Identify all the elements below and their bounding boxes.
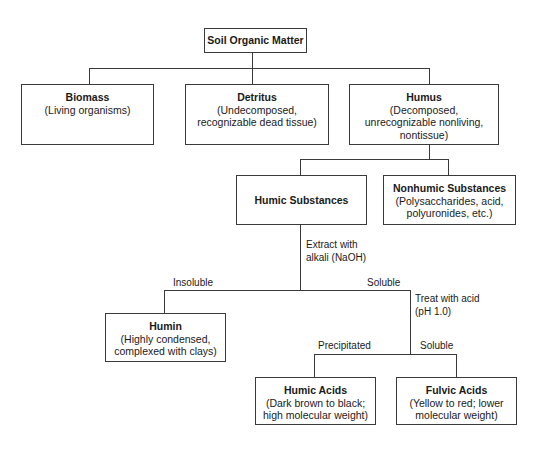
node-title: Humic Substances: [255, 194, 349, 207]
connector: [314, 354, 315, 377]
node-description: (Highly condensed, complexed with clays): [106, 333, 225, 358]
node-biomass: Biomass (Living organisms): [21, 84, 154, 145]
edge-label-treat-acid: Treat with acid (pH 1.0): [415, 292, 480, 318]
node-title: Humin: [106, 320, 225, 333]
connector: [429, 145, 430, 160]
connector: [89, 68, 90, 84]
node-nonhumic-substances: Nonhumic Substances (Polysaccharides, ac…: [383, 175, 516, 225]
connector: [164, 290, 411, 291]
node-title: Nonhumic Substances: [384, 182, 515, 195]
node-detritus: Detritus (Undecomposed, recognizable dea…: [185, 84, 329, 145]
node-soil-organic-matter: Soil Organic Matter: [204, 28, 307, 53]
node-description: (Living organisms): [22, 104, 153, 117]
node-title: Humic Acids: [256, 384, 375, 397]
node-title: Soil Organic Matter: [207, 34, 303, 47]
edge-label-precipitated: Precipitated: [318, 339, 371, 352]
connector: [300, 159, 301, 175]
node-humus: Humus (Decomposed, unrecognizable nonliv…: [349, 84, 499, 145]
node-fulvic-acids: Fulvic Acids (Yellow to red; lower molec…: [396, 377, 517, 425]
node-title: Biomass: [22, 91, 153, 104]
edge-label-soluble-acid: Soluble: [420, 339, 453, 352]
node-description: (Polysaccharides, acid, polyuronides, et…: [384, 195, 515, 220]
connector: [252, 53, 253, 69]
connector: [300, 159, 449, 160]
node-humic-substances: Humic Substances: [236, 175, 367, 225]
node-title: Detritus: [186, 91, 328, 104]
node-title: Fulvic Acids: [397, 384, 516, 397]
connector: [89, 68, 430, 69]
connector: [456, 354, 457, 377]
connector: [429, 68, 430, 84]
connector: [448, 159, 449, 175]
node-humic-acids: Humic Acids (Dark brown to black; high m…: [255, 377, 376, 425]
connector: [314, 354, 457, 355]
node-title: Humus: [350, 91, 498, 104]
edge-label-insoluble: Insoluble: [173, 276, 213, 289]
connector: [300, 225, 301, 291]
edge-label-soluble: Soluble: [367, 276, 400, 289]
connector: [252, 68, 253, 84]
connector: [410, 290, 411, 354]
node-description: (Undecomposed, recognizable dead tissue): [186, 104, 328, 129]
node-humin: Humin (Highly condensed, complexed with …: [105, 313, 226, 362]
node-description: (Decomposed, unrecognizable nonliving, n…: [350, 104, 498, 142]
edge-label-extract: Extract with alkali (NaOH): [306, 238, 366, 264]
node-description: (Yellow to red; lower molecular weight): [397, 397, 516, 422]
connector: [164, 290, 165, 313]
node-description: (Dark brown to black; high molecular wei…: [256, 397, 375, 422]
